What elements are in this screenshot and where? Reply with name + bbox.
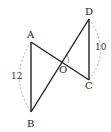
angle-mark-o xyxy=(67,55,69,63)
label-o: O xyxy=(59,64,67,75)
label-c: C xyxy=(85,80,93,91)
measure-dc: 10 xyxy=(95,42,107,52)
label-d: D xyxy=(85,6,93,17)
label-b: B xyxy=(27,118,34,129)
measure-ab: 12 xyxy=(11,71,22,81)
geometry-diagram: A B C D O 12 10 xyxy=(0,0,111,132)
label-a: A xyxy=(26,29,35,40)
